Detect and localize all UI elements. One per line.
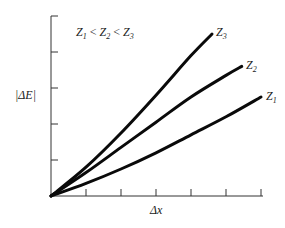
- curve-label-z2-sub: 2: [253, 65, 257, 74]
- curve-label-z3-text: Z: [216, 25, 223, 39]
- annotation-z2-sub: 2: [106, 32, 110, 41]
- curve-label-z3: Z3: [216, 25, 227, 41]
- curve-label-z1-sub: 1: [273, 96, 277, 105]
- annotation-z3-sub: 3: [130, 32, 134, 41]
- curves: [51, 34, 261, 196]
- x-axis-ticks: [86, 189, 261, 196]
- annotation-z3: Z: [123, 25, 130, 39]
- curve-label-z1: Z1: [266, 89, 277, 105]
- annotation-z1: Z: [76, 25, 83, 39]
- x-axis-label: Δx: [150, 203, 162, 218]
- inequality-annotation: Z1 < Z2 < Z3: [76, 25, 134, 41]
- less-than-2: <: [113, 25, 120, 39]
- curve-label-z3-sub: 3: [223, 32, 227, 41]
- curve-z2: [51, 66, 242, 196]
- curve-z1: [51, 97, 261, 196]
- annotation-z1-sub: 1: [83, 32, 87, 41]
- less-than-1: <: [90, 25, 97, 39]
- curve-label-z1-text: Z: [266, 89, 273, 103]
- curve-label-z2: Z2: [246, 58, 257, 74]
- chart-plot-area: [0, 0, 285, 228]
- y-axis-label: |ΔE|: [15, 88, 36, 103]
- curve-z3: [51, 34, 212, 196]
- y-axis-ticks: [51, 16, 58, 160]
- curve-label-z2-text: Z: [246, 58, 253, 72]
